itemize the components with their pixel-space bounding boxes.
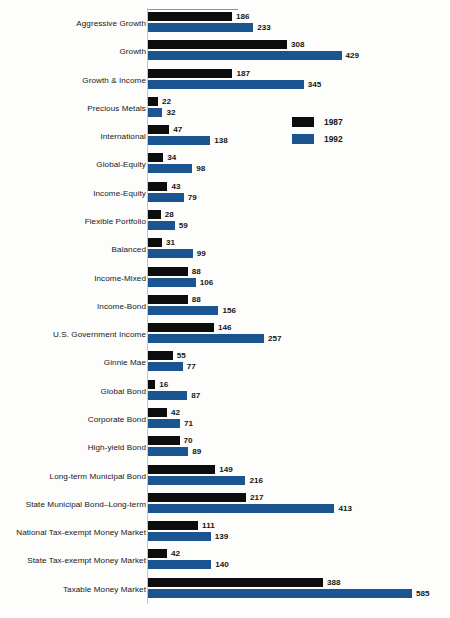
category-label: Income-Bond (97, 301, 146, 310)
chart-row: State Tax-exempt Money Market42140 (0, 547, 450, 573)
bar-1987 (148, 69, 232, 78)
bar-group: 88156 (148, 293, 412, 319)
bar-value-1992: 257 (268, 334, 282, 343)
bar-1987 (148, 436, 180, 445)
bar-value-1987: 111 (202, 521, 215, 530)
chart-row: Income-Mixed88106 (0, 265, 450, 291)
category-label: State Tax-exempt Money Market (27, 556, 146, 565)
chart-row: Flexible Portfolio2859 (0, 208, 450, 234)
bar-1992 (148, 419, 180, 428)
bar-1992 (148, 391, 187, 400)
bar-group: 388585 (148, 576, 412, 602)
bar-value-1987: 217 (250, 493, 264, 502)
bar-group: 7089 (148, 434, 412, 460)
bar-value-1987: 55 (177, 351, 186, 360)
bar-group: 88106 (148, 265, 412, 291)
chart-row: Long-term Municipal Bond149216 (0, 463, 450, 489)
bar-1992 (148, 108, 162, 117)
bar-1987 (148, 578, 323, 587)
category-label: Flexible Portfolio (85, 217, 146, 226)
bar-value-1987: 28 (165, 210, 174, 219)
bar-value-1987: 187 (236, 69, 250, 78)
chart-row: High-yield Bond7089 (0, 434, 450, 460)
bar-value-1992: 32 (166, 108, 175, 117)
bar-value-1992: 156 (222, 306, 236, 315)
chart-row: Global-Equity3498 (0, 151, 450, 177)
legend-item-1987: 1987 (292, 114, 382, 131)
bar-group: 3199 (148, 236, 412, 262)
bar-value-1992: 79 (188, 193, 197, 202)
horizontal-bar-chart: Aggressive Growth186233Growth308429Growt… (0, 0, 450, 618)
bar-value-1992: 345 (308, 80, 322, 89)
bar-value-1992: 233 (257, 23, 271, 32)
bar-1987 (148, 295, 188, 304)
bar-group: 4379 (148, 180, 412, 206)
category-label: International (100, 132, 146, 141)
bar-1987 (148, 97, 158, 106)
chart-legend: 1987 1992 (292, 114, 382, 148)
bar-group: 42140 (148, 547, 412, 573)
bar-value-1992: 98 (196, 164, 205, 173)
bar-1992 (148, 51, 342, 60)
bar-1987 (148, 238, 162, 247)
chart-row: Income-Equity4379 (0, 180, 450, 206)
category-label: Income-Mixed (94, 273, 146, 282)
bar-value-1992: 216 (249, 476, 263, 485)
category-label: Balanced (112, 245, 146, 254)
bar-1992 (148, 362, 183, 371)
category-label: Precious Metals (87, 103, 146, 112)
category-label: U.S. Government Income (53, 330, 146, 339)
bar-group: 1687 (148, 378, 412, 404)
bar-value-1992: 585 (416, 589, 430, 598)
category-label: State Municipal Bond–Long-term (26, 499, 146, 508)
bar-value-1992: 139 (215, 532, 229, 541)
chart-row: Global Bond1687 (0, 378, 450, 404)
category-label: Aggressive Growth (76, 19, 146, 28)
bar-value-1987: 31 (166, 238, 175, 247)
bar-value-1987: 388 (327, 578, 341, 587)
bar-1987 (148, 465, 215, 474)
category-label: High-yield Bond (88, 443, 146, 452)
bar-1987 (148, 153, 163, 162)
bar-value-1987: 16 (159, 380, 168, 389)
bar-value-1992: 87 (191, 391, 200, 400)
bar-1992 (148, 476, 245, 485)
chart-row: International47138 (0, 123, 450, 149)
bar-1992 (148, 504, 334, 513)
chart-row: U.S. Government Income146257 (0, 321, 450, 347)
bar-value-1987: 186 (236, 12, 250, 21)
bar-1992 (148, 221, 175, 230)
chart-row: Ginnie Mae5577 (0, 349, 450, 375)
bar-1987 (148, 210, 161, 219)
chart-row: Income-Bond88156 (0, 293, 450, 319)
category-label: Global-Equity (96, 160, 146, 169)
bar-group: 187345 (148, 67, 412, 93)
category-label: Growth (119, 47, 146, 56)
bar-value-1992: 138 (214, 136, 228, 145)
bar-1987 (148, 323, 214, 332)
bar-value-1992: 99 (197, 249, 206, 258)
bar-1992 (148, 23, 253, 32)
bar-1992 (148, 306, 218, 315)
bar-group: 186233 (148, 10, 412, 36)
bar-1992 (148, 136, 210, 145)
bar-1987 (148, 493, 246, 502)
category-label: Long-term Municipal Bond (50, 471, 146, 480)
chart-row: Corporate Bond4271 (0, 406, 450, 432)
bar-1992 (148, 532, 211, 541)
bar-1992 (148, 278, 196, 287)
bar-value-1987: 149 (219, 465, 233, 474)
bar-value-1987: 88 (192, 295, 201, 304)
bar-group: 111139 (148, 519, 412, 545)
legend-item-1992: 1992 (292, 131, 382, 148)
bar-value-1992: 77 (187, 362, 196, 371)
bar-1987 (148, 521, 198, 530)
bar-value-1992: 429 (346, 51, 360, 60)
chart-row: State Municipal Bond–Long-term217413 (0, 491, 450, 517)
category-label: Ginnie Mae (104, 358, 146, 367)
chart-row: Growth308429 (0, 38, 450, 64)
chart-row: Balanced3199 (0, 236, 450, 262)
category-label: Growth & Income (82, 75, 146, 84)
bar-group: 3498 (148, 151, 412, 177)
bar-group: 4271 (148, 406, 412, 432)
